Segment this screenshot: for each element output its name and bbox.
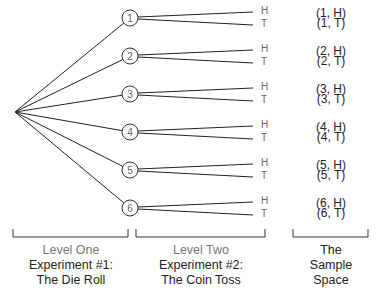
outcome-item: (3, T) (300, 92, 362, 106)
edge-5-H (138, 164, 253, 169)
sample-space-line2: Sample (293, 258, 369, 273)
edge-2-T (138, 57, 253, 63)
edge-4-H (138, 126, 253, 131)
outcome-item: (2, T) (300, 54, 362, 68)
die-node-label: 1 (127, 13, 133, 24)
edge-1-T (138, 19, 253, 25)
coin-toss-label: The Coin Toss (136, 273, 266, 288)
die-node-label: 4 (127, 127, 133, 138)
coin-label-t: T (261, 94, 267, 105)
sample-space-line1: The (293, 243, 369, 258)
edge-6-T (138, 209, 253, 215)
coin-label-h: H (261, 81, 268, 92)
outcome-item: (5, T) (300, 168, 362, 182)
outcome-item: (4, T) (300, 130, 362, 144)
die-roll-label: The Die Roll (13, 273, 129, 288)
level-one-label: Level One (13, 243, 129, 258)
experiment-one-label: Experiment #1: (13, 258, 129, 273)
edge-root-to-1 (15, 23, 124, 112)
caption-sample-space: The Sample Space (293, 243, 369, 288)
coin-label-h: H (261, 157, 268, 168)
coin-label-t: T (261, 132, 267, 143)
coin-label-h: H (261, 5, 268, 16)
outcome-item: (1, T) (300, 16, 362, 30)
edge-6-H (138, 202, 253, 207)
edge-root-to-5 (15, 112, 123, 166)
die-node-label: 2 (127, 51, 133, 62)
sample-space-line3: Space (293, 273, 369, 288)
coin-label-t: T (261, 170, 267, 181)
edge-4-T (138, 133, 253, 139)
edge-1-H (138, 12, 253, 17)
coin-label-h: H (261, 43, 268, 54)
bracket-level-one (13, 229, 128, 237)
edge-root-to-6 (15, 112, 124, 203)
edge-3-T (138, 95, 253, 101)
edge-root-to-3 (15, 95, 122, 112)
coin-label-t: T (261, 56, 267, 67)
caption-level-two: Level Two Experiment #2: The Coin Toss (136, 243, 266, 288)
die-node-label: 6 (127, 203, 133, 214)
coin-label-t: T (261, 18, 267, 29)
experiment-two-label: Experiment #2: (136, 258, 266, 273)
bracket-sample-space (293, 229, 368, 237)
caption-level-one: Level One Experiment #1: The Die Roll (13, 243, 129, 288)
die-node-label: 5 (127, 165, 133, 176)
edge-5-T (138, 171, 253, 177)
level-two-label: Level Two (136, 243, 266, 258)
coin-label-h: H (261, 195, 268, 206)
bracket-level-two (136, 229, 265, 237)
coin-label-t: T (261, 208, 267, 219)
coin-label-h: H (261, 119, 268, 130)
edge-root-to-4 (15, 112, 122, 131)
outcome-item: (6, T) (300, 206, 362, 220)
die-node-label: 3 (127, 89, 133, 100)
edge-2-H (138, 50, 253, 55)
edge-3-H (138, 88, 253, 93)
